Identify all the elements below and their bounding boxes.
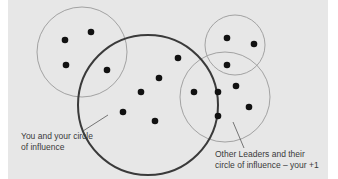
you-label-pointer xyxy=(83,115,108,131)
person-dot xyxy=(152,118,159,125)
person-dot xyxy=(175,55,182,62)
person-dot xyxy=(224,62,231,69)
person-dot xyxy=(246,104,253,111)
circle-you xyxy=(78,35,218,175)
others-label-line-2: circle of influence – your +1 xyxy=(215,160,319,171)
other-leaders-label: Other Leaders and their circle of influe… xyxy=(215,149,319,171)
person-dot xyxy=(156,75,163,82)
others-label-pointer xyxy=(233,122,244,148)
you-circle-label: You and your circle of influence xyxy=(21,131,93,153)
person-dot xyxy=(62,37,69,44)
person-dot xyxy=(251,41,258,48)
person-dot xyxy=(88,29,95,36)
person-dot xyxy=(120,109,127,116)
you-label-line-2: of influence xyxy=(21,142,93,153)
person-dot xyxy=(215,89,222,96)
person-dot xyxy=(191,89,198,96)
person-dots xyxy=(62,29,258,125)
person-dot xyxy=(138,89,145,96)
you-label-line-1: You and your circle xyxy=(21,131,93,142)
person-dot xyxy=(233,83,240,90)
person-dot xyxy=(104,67,111,74)
person-dot xyxy=(224,35,231,42)
person-dot xyxy=(63,62,70,69)
others-label-line-1: Other Leaders and their xyxy=(215,149,319,160)
person-dot xyxy=(215,113,222,120)
label-pointers xyxy=(83,115,244,148)
